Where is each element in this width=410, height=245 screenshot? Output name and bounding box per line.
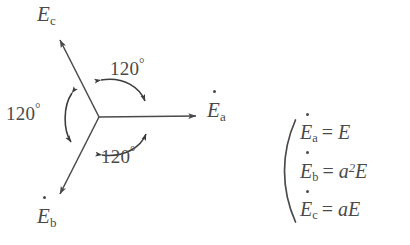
angle-arc-left xyxy=(65,93,72,142)
overdot-icon xyxy=(306,190,309,193)
eq-operator-ea: = xyxy=(322,121,333,143)
eq-lhs-sub-eb: b xyxy=(312,170,318,184)
overdot-icon xyxy=(306,113,309,116)
angle-value-bottom: 120 xyxy=(101,146,130,167)
phasor-vector-ea xyxy=(99,116,196,117)
eq-rhs-tail-eb: E xyxy=(355,160,367,182)
angle-label-bottom: 120° xyxy=(101,144,136,168)
equation-ea: Ea=E xyxy=(300,122,367,145)
eq-lhs-sub-ea: a xyxy=(312,131,318,145)
phasor-symbol-eb: E xyxy=(37,204,50,228)
angle-value-left: 120 xyxy=(6,103,35,124)
phasor-diagram-figure: Ea Ec Eb 120° 120° 120° Ea=E Eb=a2E xyxy=(0,0,410,245)
eq-lhs-symbol-eb: E xyxy=(300,160,312,182)
phasor-subscript-ea: a xyxy=(220,109,226,124)
eq-rhs-tail-ec: E xyxy=(348,198,360,220)
equation-lines: Ea=E Eb=a2E Ec=aE xyxy=(298,118,367,224)
phasor-symbol-ec: E xyxy=(37,2,50,26)
eq-rhs-base-ec: a xyxy=(338,198,348,220)
overdot-icon xyxy=(306,151,309,154)
eq-lhs-sub-ec: c xyxy=(312,209,318,223)
equation-eb: Eb=a2E xyxy=(300,161,367,184)
eq-lhs-symbol-ec: E xyxy=(300,198,312,220)
angle-label-left: 120° xyxy=(6,101,41,125)
phasor-label-ec: Ec xyxy=(37,4,56,27)
angle-value-top: 120 xyxy=(110,58,139,79)
eq-lhs-symbol-ea: E xyxy=(300,121,312,143)
degree-icon: ° xyxy=(35,101,41,116)
degree-icon: ° xyxy=(139,56,145,71)
phasor-subscript-ec: c xyxy=(50,13,56,28)
phasor-label-ea: Ea xyxy=(207,100,226,123)
equation-ec: Ec=aE xyxy=(300,199,367,222)
phasor-label-eb: Eb xyxy=(37,206,57,229)
eq-rhs-base-eb: a xyxy=(339,160,349,182)
phasor-subscript-eb: b xyxy=(50,215,57,230)
eq-operator-ec: = xyxy=(322,198,333,220)
angle-arc-top xyxy=(101,79,145,101)
left-parenthesis-icon xyxy=(281,118,298,224)
degree-icon: ° xyxy=(130,144,136,159)
equation-system: Ea=E Eb=a2E Ec=aE xyxy=(281,118,367,224)
angle-label-top: 120° xyxy=(110,56,145,80)
phasor-symbol-ea: E xyxy=(207,98,220,122)
eq-rhs-ea: E xyxy=(338,121,350,143)
eq-operator-eb: = xyxy=(322,160,333,182)
